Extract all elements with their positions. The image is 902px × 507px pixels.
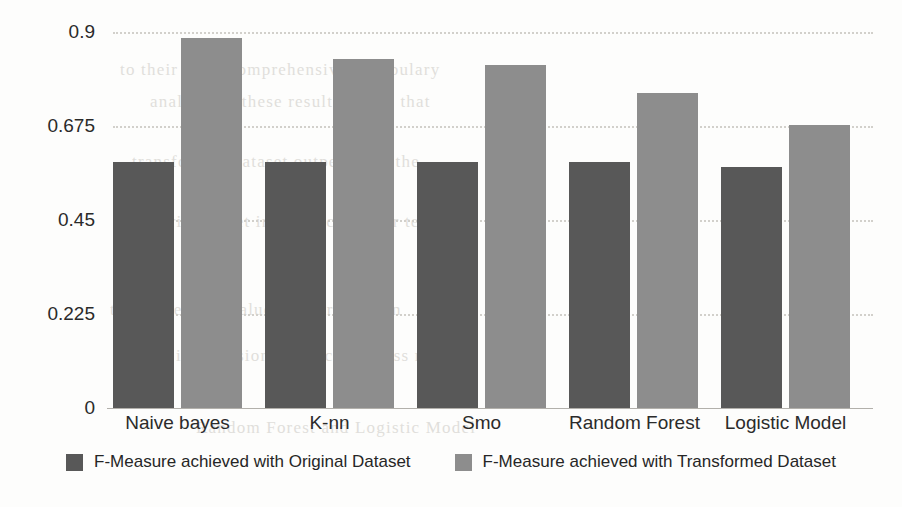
bar[interactable] [789,125,850,408]
bar[interactable] [417,162,478,408]
y-axis-tick-label: 0.9 [69,21,95,43]
bar-group [569,32,721,408]
y-axis-tick-label: 0.225 [47,303,95,325]
bar[interactable] [721,167,782,408]
legend-swatch-transformed-icon [455,454,472,471]
bar[interactable] [265,162,326,408]
x-axis-tick-label: K-nn [265,412,417,434]
bar-group-container [113,32,873,408]
bar-group [113,32,265,408]
y-axis-tick-label: 0 [84,397,95,419]
bar[interactable] [485,65,546,408]
plot-area: 00.2250.450.6750.9 [113,32,873,408]
chart-legend: F-Measure achieved with Original Dataset… [0,452,902,472]
x-axis-line [107,408,873,409]
bar-chart: 00.2250.450.6750.9 Naive bayesK-nnSmoRan… [0,0,902,507]
bar-group [417,32,569,408]
legend-item[interactable]: F-Measure achieved with Transformed Data… [455,452,836,472]
legend-swatch-original-icon [66,454,83,471]
legend-label: F-Measure achieved with Original Dataset [94,452,411,472]
y-axis-tick-label: 0.45 [58,209,95,231]
bar-group [721,32,873,408]
bar[interactable] [333,59,394,408]
x-axis-tick-label: Naive bayes [113,412,265,434]
bar[interactable] [181,38,242,408]
y-axis-tick-label: 0.675 [47,115,95,137]
bar-group [265,32,417,408]
x-axis-category-labels: Naive bayesK-nnSmoRandom ForestLogistic … [113,412,873,434]
bar[interactable] [113,162,174,408]
bar[interactable] [637,93,698,408]
x-axis-tick-label: Logistic Model [721,412,873,434]
x-axis-tick-label: Smo [417,412,569,434]
x-axis-tick-label: Random Forest [569,412,721,434]
legend-label: F-Measure achieved with Transformed Data… [483,452,836,472]
legend-item[interactable]: F-Measure achieved with Original Dataset [66,452,411,472]
bar[interactable] [569,162,630,408]
